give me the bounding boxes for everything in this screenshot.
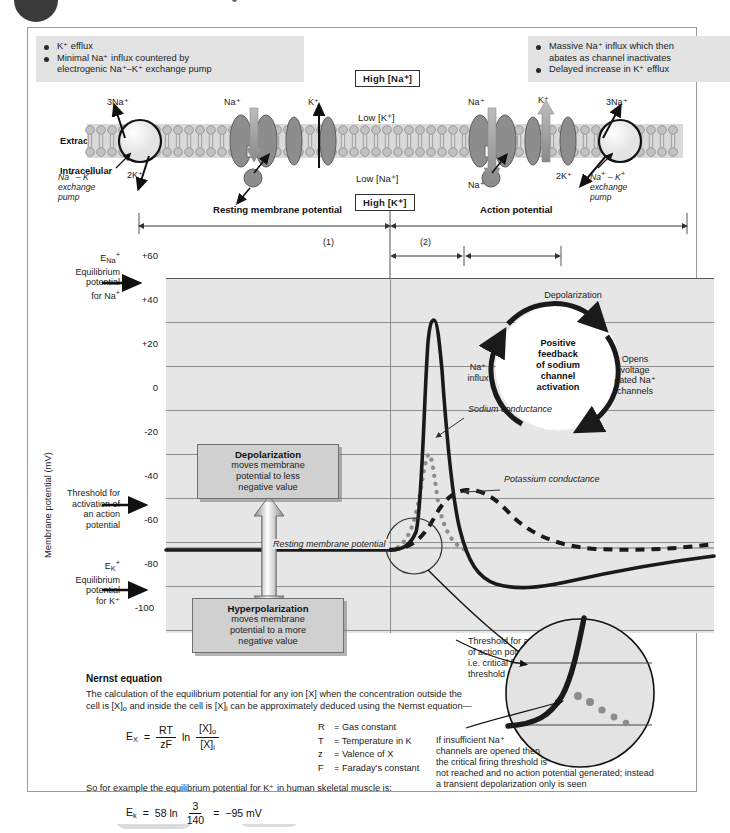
- nernst-equation: EX = RT zF ln [X]o [X]i R= Gas constant …: [86, 723, 476, 757]
- box-depolarization: Depolarization moves membrane potential …: [197, 444, 339, 499]
- legend-row-z: z= Valence of X: [318, 748, 419, 762]
- eq-ln: ln: [182, 731, 190, 743]
- feedback-label-right: Opensvoltagegated Na⁺channels: [604, 354, 666, 396]
- ex-equals-2: =: [213, 807, 219, 819]
- legend-row-r: R= Gas constant: [318, 721, 419, 735]
- nernst-body: The calculation of the equilibrium poten…: [86, 689, 476, 714]
- eq-frac-rt-zf: RT zF: [156, 725, 176, 750]
- sodium-label-leader: [438, 418, 464, 436]
- legend-row-f: F= Faraday's constant: [318, 762, 419, 776]
- label-resting-potential: Resting membrane potential: [270, 539, 389, 549]
- nernst-heading: Nernst equation: [86, 673, 476, 684]
- figure-plate: K⁺ efflux Minimal Na⁺ influx countered b…: [27, 27, 697, 792]
- label-potassium-conductance: Potassium conductance: [504, 474, 600, 484]
- ex-frac: 3 140: [184, 801, 208, 826]
- ex-result: −95 mV: [225, 807, 261, 819]
- nernst-example-intro: So for example the equilibrium potential…: [86, 783, 476, 795]
- nernst-example-equation: Ek = 58 ln 3 140 = −95 mV: [86, 801, 476, 833]
- ex-lhs: Ek: [126, 806, 137, 820]
- eq-lhs: EX: [126, 730, 138, 744]
- threshold-zoom-circle: [386, 518, 442, 574]
- label-sodium-conductance: Sodium conductance: [468, 404, 552, 414]
- inset-bottom-caption: If insufficient Na⁺ channels are opened …: [436, 735, 716, 790]
- chapter-bullet-icon: [14, 0, 58, 22]
- feedback-label-top: Depolarization: [518, 290, 628, 301]
- nernst-section: Nernst equation The calculation of the e…: [86, 673, 476, 833]
- feedback-core-text: Positivefeedbackof sodiumchannelactivati…: [518, 338, 598, 393]
- page-mark-icon: [232, 0, 237, 2]
- box-hyperpolarization: Hyperpolarization moves membrane potenti…: [192, 598, 344, 653]
- action-potential-plot: Depolarization moves membrane potential …: [166, 278, 714, 633]
- ex-coef: 58 ln: [155, 807, 178, 819]
- legend-row-t: T= Temperature in K: [318, 735, 419, 749]
- feedback-label-left: Na⁺influx: [458, 362, 498, 383]
- eq-frac-conc: [X]o [X]i: [196, 723, 219, 752]
- ex-equals: =: [143, 807, 149, 819]
- nernst-legend: R= Gas constant T= Temperature in K z= V…: [318, 721, 419, 775]
- eq-equals: =: [144, 731, 150, 743]
